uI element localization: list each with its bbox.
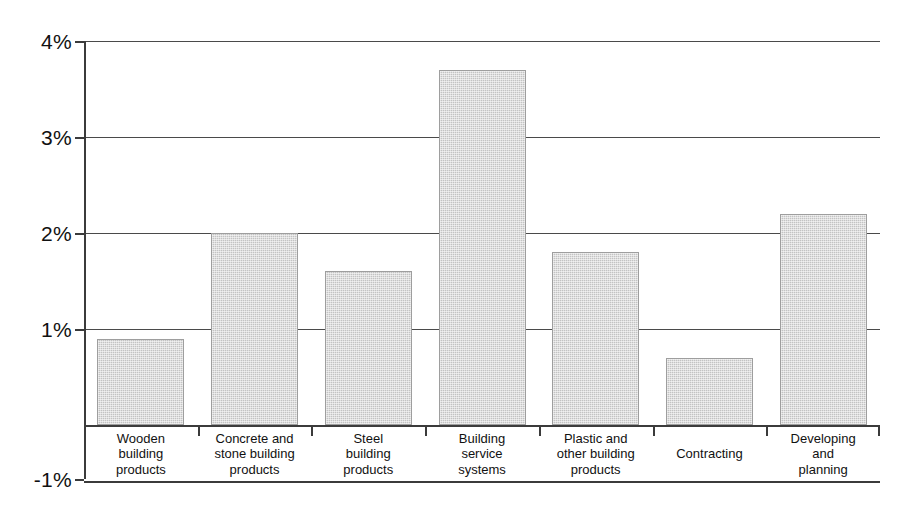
bar-chart: 4%3%2%1%-1% WoodenbuildingproductsConcre… bbox=[0, 0, 921, 518]
y-axis-tick-label: -1% bbox=[34, 469, 72, 490]
gridline-4pct bbox=[84, 41, 880, 42]
category-label-line: products bbox=[116, 462, 166, 478]
category-separator-tick bbox=[425, 427, 427, 436]
category-label-line: building bbox=[346, 446, 391, 462]
category-label-line: Developing bbox=[791, 431, 856, 447]
y-axis-tick-label: 1% bbox=[41, 319, 72, 340]
category-label-line: building bbox=[118, 446, 163, 462]
bar-1 bbox=[97, 339, 184, 425]
y-axis-tick-label: 2% bbox=[41, 223, 72, 244]
category-separator-tick-end bbox=[878, 427, 880, 436]
category-separator-tick bbox=[653, 427, 655, 436]
category-label-line: products bbox=[343, 462, 393, 478]
y-axis-tick-mark bbox=[75, 41, 84, 43]
category-label-line: Concrete and bbox=[216, 431, 294, 447]
bar-7 bbox=[780, 214, 867, 425]
category-label-line: Plastic and bbox=[564, 431, 628, 447]
category-label-line: products bbox=[571, 462, 621, 478]
y-axis-tick-mark bbox=[75, 329, 84, 331]
y-axis-tick-label: 3% bbox=[41, 127, 72, 148]
bar-3 bbox=[325, 271, 412, 425]
category-label-line: Building bbox=[459, 431, 505, 447]
bar-4 bbox=[439, 70, 526, 425]
category-label-line: other building bbox=[557, 446, 635, 462]
category-label-band: WoodenbuildingproductsConcrete andstone … bbox=[84, 425, 880, 483]
y-axis-tick-mark bbox=[75, 137, 84, 139]
bar-6 bbox=[666, 358, 753, 425]
category-label-5: Plastic andother buildingproducts bbox=[539, 427, 653, 481]
category-separator-tick bbox=[766, 427, 768, 436]
y-axis-tick-label: 4% bbox=[41, 31, 72, 52]
category-label-line: products bbox=[230, 462, 280, 478]
y-axis-tick-mark bbox=[75, 479, 84, 481]
category-label-1: Woodenbuildingproducts bbox=[84, 427, 198, 481]
category-label-2: Concrete andstone buildingproducts bbox=[198, 427, 312, 481]
category-label-7: Developingandplanning bbox=[766, 427, 880, 481]
category-label-line: Wooden bbox=[117, 431, 165, 447]
category-label-line: stone building bbox=[214, 446, 294, 462]
category-separator-tick bbox=[311, 427, 313, 436]
y-axis-line bbox=[84, 41, 86, 479]
category-separator-tick bbox=[198, 427, 200, 436]
category-label-line: and bbox=[812, 446, 834, 462]
category-label-line: systems bbox=[458, 462, 506, 478]
category-label-line: Contracting bbox=[676, 446, 742, 462]
category-label-line: Steel bbox=[353, 431, 383, 447]
category-separator-tick bbox=[539, 427, 541, 436]
category-label-4: Buildingservicesystems bbox=[425, 427, 539, 481]
category-label-6: Contracting bbox=[653, 427, 767, 481]
plot-area bbox=[84, 41, 880, 425]
category-label-line: service bbox=[461, 446, 502, 462]
category-label-3: Steelbuildingproducts bbox=[311, 427, 425, 481]
bar-2 bbox=[211, 233, 298, 425]
bar-5 bbox=[552, 252, 639, 425]
y-axis-tick-mark bbox=[75, 233, 84, 235]
category-label-line: planning bbox=[799, 462, 848, 478]
